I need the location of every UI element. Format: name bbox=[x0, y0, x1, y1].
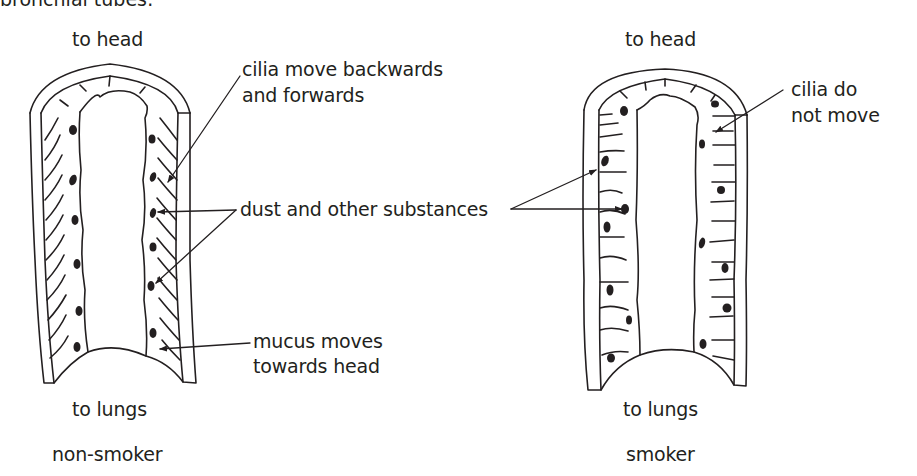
right-bottom-label: to lungs bbox=[623, 398, 698, 420]
left-bottom-label: to lungs bbox=[72, 398, 147, 420]
mucus-annotation-line1: mucus moves bbox=[253, 330, 383, 352]
non-smoker-tube bbox=[30, 64, 196, 383]
right-cilia-annotation-line1: cilia do bbox=[791, 78, 857, 100]
right-cilia-annotation-line2: not move bbox=[791, 104, 880, 126]
left-cilia-annotation-line1: cilia move backwards bbox=[242, 58, 443, 80]
left-top-label: to head bbox=[72, 28, 143, 50]
dust-annotation: dust and other substances bbox=[240, 198, 488, 220]
left-cilia-annotation-line2: and forwards bbox=[242, 84, 364, 106]
smoker-caption: smoker bbox=[626, 443, 695, 465]
mucus-annotation-line2: towards head bbox=[253, 355, 380, 377]
smoker-dust-particles bbox=[600, 101, 732, 363]
non-smoker-caption: non-smoker bbox=[52, 443, 162, 465]
non-smoker-dust-particles bbox=[68, 125, 158, 352]
right-top-label: to head bbox=[625, 28, 696, 50]
